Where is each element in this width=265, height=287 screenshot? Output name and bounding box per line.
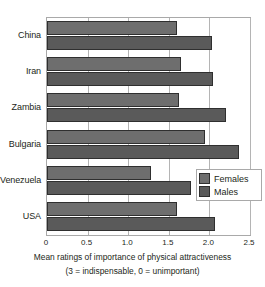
x-tick-label: 2.0 — [203, 238, 214, 248]
bar-males-iran — [47, 72, 213, 86]
category-label-usa: USA — [0, 211, 41, 221]
category-label-bulgaria: Bulgaria — [0, 139, 41, 149]
x-axis-caption: Mean ratings of importance of physical a… — [0, 252, 265, 277]
legend-item-males: Males — [199, 185, 260, 198]
category-label-venezuela: Venezuela — [0, 175, 41, 185]
x-tick-label: 1.5 — [162, 238, 173, 248]
bar-males-usa — [47, 217, 215, 231]
x-tick-label: 1.0 — [122, 238, 133, 248]
bar-chart: China Iran Zambia Bulgaria Venezuela USA… — [0, 0, 265, 287]
category-label-iran: Iran — [0, 66, 41, 76]
legend-label-females: Females — [214, 174, 249, 184]
bar-females-venezuela — [47, 166, 151, 180]
bar-males-china — [47, 36, 212, 50]
bar-males-venezuela — [47, 181, 191, 195]
bar-females-china — [47, 21, 177, 35]
x-axis-caption-line-2: (3 = indispensable, 0 = unimportant) — [0, 266, 265, 277]
gridline — [250, 18, 251, 235]
x-tick-label: 0.5 — [81, 238, 92, 248]
x-axis-caption-line-1: Mean ratings of importance of physical a… — [0, 252, 265, 263]
bar-group — [47, 202, 250, 232]
plot-area — [46, 17, 251, 236]
bar-females-iran — [47, 57, 181, 71]
category-label-china: China — [0, 30, 41, 40]
legend-swatch-males-icon — [199, 186, 210, 197]
legend-swatch-females-icon — [199, 173, 210, 184]
bars-layer — [47, 18, 250, 235]
bar-females-bulgaria — [47, 130, 205, 144]
legend-item-females: Females — [199, 172, 260, 185]
x-tick-label: 2.5 — [243, 238, 254, 248]
x-tick-label: 0 — [44, 238, 48, 248]
bar-males-zambia — [47, 108, 226, 122]
bar-females-usa — [47, 202, 177, 216]
category-axis: China Iran Zambia Bulgaria Venezuela USA — [0, 17, 44, 236]
bar-males-bulgaria — [47, 145, 239, 159]
legend: Females Males — [196, 169, 262, 201]
bar-females-zambia — [47, 93, 179, 107]
bar-group — [47, 21, 250, 51]
category-label-zambia: Zambia — [0, 102, 41, 112]
bar-group — [47, 57, 250, 87]
legend-label-males: Males — [214, 187, 238, 197]
x-axis-ticks: 00.51.01.52.02.5 — [46, 238, 251, 250]
bar-group — [47, 93, 250, 123]
bar-group — [47, 130, 250, 160]
